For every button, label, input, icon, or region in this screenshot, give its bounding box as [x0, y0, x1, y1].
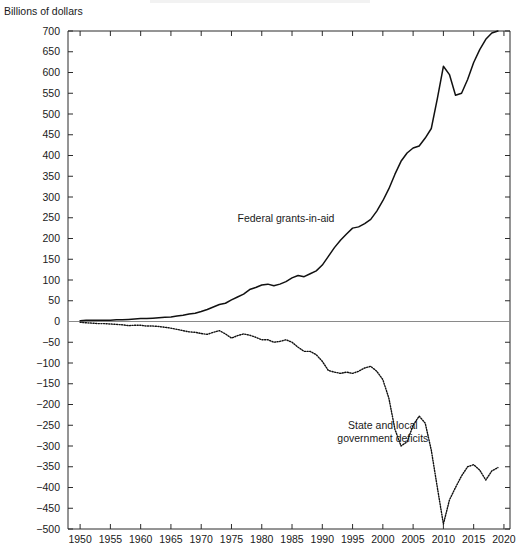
x-tick-label: 2005 [401, 533, 425, 545]
x-tick-label: 1995 [341, 533, 365, 545]
y-tick-label: 600 [42, 66, 60, 78]
y-tick-label: 300 [42, 191, 60, 203]
series-line-1 [80, 31, 498, 321]
x-tick-label: 1975 [220, 533, 244, 545]
annotation-label: government deficits [337, 432, 428, 444]
y-tick-label: −150 [36, 377, 60, 389]
y-tick-label: 250 [42, 211, 60, 223]
y-tick-label: 650 [42, 45, 60, 57]
series-line-2 [80, 322, 498, 524]
x-tick-label: 2010 [432, 533, 456, 545]
chart-figure: Billions of dollars 70065060055050045040… [0, 0, 522, 552]
y-tick-label: 350 [42, 170, 60, 182]
y-tick-label: 100 [42, 274, 60, 286]
y-tick-label: 50 [48, 294, 60, 306]
y-tick-label: −200 [36, 398, 60, 410]
y-tick-label: −250 [36, 419, 60, 431]
y-tick-label: 450 [42, 128, 60, 140]
x-tick-label: 1950 [68, 533, 92, 545]
x-tick-label: 1970 [190, 533, 214, 545]
y-tick-label: −100 [36, 357, 60, 369]
y-tick-label: 500 [42, 108, 60, 120]
x-tick-label: 2020 [492, 533, 516, 545]
y-tick-label: 400 [42, 149, 60, 161]
y-tick-label: −450 [36, 502, 60, 514]
series-annotations: Federal grants-in-aidState and localgove… [238, 212, 429, 445]
y-axis-ticks: 7006506005505004504003503002502001501005… [36, 25, 510, 535]
y-tick-label: −500 [36, 523, 60, 535]
x-tick-label: 1990 [311, 533, 335, 545]
y-tick-label: −300 [36, 440, 60, 452]
y-tick-label: 200 [42, 232, 60, 244]
annotation-label: State and local [348, 419, 417, 431]
y-tick-label: 150 [42, 253, 60, 265]
x-tick-label: 1960 [129, 533, 153, 545]
y-tick-label: −350 [36, 460, 60, 472]
x-tick-label: 1965 [159, 533, 183, 545]
annotation-label: Federal grants-in-aid [238, 212, 335, 224]
y-tick-label: −50 [42, 336, 60, 348]
x-tick-label: 1955 [99, 533, 123, 545]
x-tick-label: 2000 [371, 533, 395, 545]
data-series-group [80, 31, 498, 524]
x-tick-label: 2015 [462, 533, 486, 545]
y-tick-label: −400 [36, 481, 60, 493]
y-tick-label: 550 [42, 87, 60, 99]
x-axis-ticks: 1950195519601965197019751980198519901995… [68, 31, 515, 545]
line-chart-plot: 7006506005505004504003503002502001501005… [0, 0, 522, 552]
y-tick-label: 0 [54, 315, 60, 327]
x-tick-label: 1980 [250, 533, 274, 545]
x-tick-label: 1985 [280, 533, 304, 545]
y-tick-label: 700 [42, 25, 60, 37]
